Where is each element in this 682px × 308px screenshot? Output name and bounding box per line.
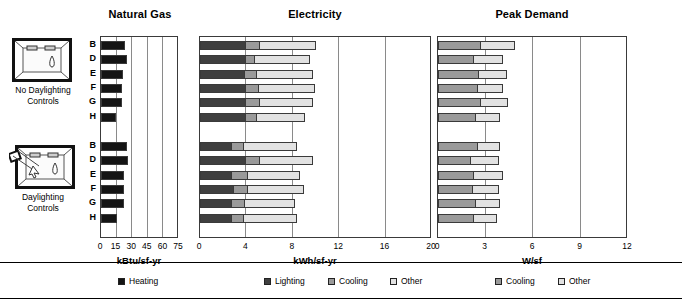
axis-title: kBtu/sf-yr [100, 255, 178, 266]
bar [101, 142, 127, 151]
bar-segment-lighting [200, 156, 246, 165]
axis-tick: 16 [374, 242, 396, 251]
legend-item: Cooling [328, 277, 368, 286]
legend-swatch-icon [328, 278, 335, 285]
legend-label: Other [401, 277, 422, 286]
axis-tick: 6 [521, 242, 543, 251]
row-label: E [84, 170, 96, 179]
bar-segment-cooling [231, 171, 247, 180]
row-label: D [84, 54, 96, 63]
legend-swatch-icon [495, 278, 502, 285]
bar [438, 156, 499, 165]
axis-tick: 0 [426, 242, 448, 251]
legend-item: Other [558, 277, 590, 286]
bar [200, 55, 310, 64]
bar [438, 70, 507, 79]
bar [438, 171, 503, 180]
plot-area [437, 36, 627, 238]
bar-segment-cooling [245, 84, 259, 93]
bar-segment-cooling [245, 156, 260, 165]
legend-item: Heating [118, 277, 158, 286]
group-caption-line2: Controls [4, 96, 82, 107]
bar-segment-other [480, 98, 509, 107]
bar-segment-other [472, 185, 499, 194]
bar-segment-lighting [200, 84, 246, 93]
bar-segment-cooling [438, 199, 476, 208]
bar-segment-heating [101, 171, 124, 180]
bar-segment-lighting [200, 214, 232, 223]
bar-segment-other [470, 156, 499, 165]
bar-segment-heating [101, 185, 124, 194]
bar-segment-lighting [200, 41, 246, 50]
bar-segment-lighting [200, 55, 246, 64]
row-label: H [84, 213, 96, 222]
group-caption-line2: Controls [4, 203, 82, 214]
group-caption-line1: No Daylighting [4, 85, 82, 96]
bar-segment-lighting [200, 98, 246, 107]
legend-label: Cooling [339, 277, 368, 286]
bar-segment-other [473, 214, 497, 223]
gridline [385, 37, 386, 237]
bar-segment-other [473, 55, 503, 64]
bar-segment-other [475, 113, 500, 122]
bar-segment-cooling [438, 98, 481, 107]
bar-segment-other [259, 156, 312, 165]
bar [101, 185, 124, 194]
bar [101, 214, 117, 223]
bar [200, 171, 300, 180]
bar-segment-other [480, 41, 515, 50]
row-label: F [84, 83, 96, 92]
bar-segment-cooling [438, 142, 478, 151]
row-label: D [84, 155, 96, 164]
chart-title: Natural Gas [66, 8, 214, 20]
bar-segment-heating [101, 199, 124, 208]
axis-tick: 3 [474, 242, 496, 251]
bar-segment-other [247, 171, 300, 180]
bar [101, 70, 123, 79]
bar [438, 142, 500, 151]
bar [101, 199, 124, 208]
bar-segment-lighting [200, 142, 232, 151]
bar [200, 185, 304, 194]
bar [438, 41, 515, 50]
row-label: B [84, 141, 96, 150]
bar-segment-lighting [200, 171, 232, 180]
row-label: E [84, 69, 96, 78]
legend-item: Lighting [264, 277, 305, 286]
chart-title: Electricity [199, 8, 431, 20]
bar-segment-cooling [438, 171, 474, 180]
bar [200, 70, 313, 79]
bar [200, 214, 297, 223]
room-no-daylighting-icon [4, 37, 82, 83]
gridline [162, 37, 163, 237]
legend-item: Other [390, 277, 422, 286]
axis-tick: 75 [167, 242, 189, 251]
bar [101, 84, 122, 93]
group-caption-line1: Daylighting [4, 192, 82, 203]
legend-label: Cooling [506, 277, 535, 286]
bar [101, 55, 127, 64]
bar-segment-cooling [438, 156, 471, 165]
gridline [338, 37, 339, 237]
bar-segment-other [247, 185, 304, 194]
plot-area [199, 36, 431, 238]
bar-segment-other [477, 142, 501, 151]
bar [438, 185, 499, 194]
axis-tick: 4 [234, 242, 256, 251]
legend-swatch-icon [118, 278, 125, 285]
axis-tick: 9 [569, 242, 591, 251]
bar [101, 156, 128, 165]
bar-segment-lighting [200, 70, 245, 79]
bar-segment-heating [101, 84, 122, 93]
bar [438, 55, 503, 64]
bar-segment-cooling [438, 41, 481, 50]
legend-swatch-icon [264, 278, 271, 285]
legend-label: Other [569, 277, 590, 286]
bar-segment-heating [101, 142, 127, 151]
bar-segment-lighting [200, 113, 246, 122]
axis-tick: 12 [327, 242, 349, 251]
bar-segment-lighting [200, 199, 232, 208]
row-label: F [84, 184, 96, 193]
row-label: B [84, 40, 96, 49]
legend-swatch-icon [558, 278, 565, 285]
